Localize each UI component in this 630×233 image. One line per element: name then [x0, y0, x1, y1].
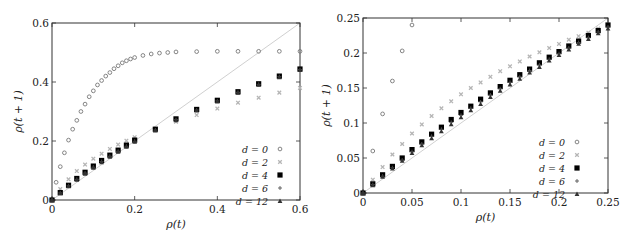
y-tick-label: 0.15	[337, 82, 360, 94]
legend-marker-icon	[575, 192, 580, 196]
series-d-4	[360, 22, 610, 195]
legend-label: d = 0	[539, 137, 565, 148]
legend-label: d = 4	[242, 170, 268, 181]
y-tick-label: 0	[353, 187, 360, 199]
series-d-12	[361, 26, 611, 195]
chart-left-full-range: 00.20.40.600.20.40.6ρ(t)ρ(t + 1)d = 0d =…	[0, 0, 315, 233]
x-tick-label: 0.15	[498, 196, 521, 208]
y-tick-label: 0	[42, 194, 49, 206]
series-d-0	[361, 23, 414, 195]
x-tick-label: 0.4	[209, 203, 226, 215]
x-tick-label: 0.6	[292, 203, 309, 215]
legend-marker-icon	[278, 199, 283, 203]
legend-label: d = 12	[236, 196, 268, 207]
legend-marker-icon	[278, 160, 282, 164]
x-axis-label: ρ(t)	[475, 211, 495, 224]
x-tick-label: 0.2	[126, 203, 143, 215]
y-tick-label: 0.6	[32, 17, 49, 29]
legend-label: d = 6	[242, 183, 268, 194]
legend-marker-icon	[277, 172, 282, 177]
y-tick-label: 0.1	[343, 117, 360, 129]
y-axis-label: ρ(t + 1)	[12, 90, 25, 134]
chart-left-svg: 00.20.40.600.20.40.6ρ(t)ρ(t + 1)d = 0d =…	[0, 0, 315, 233]
legend: d = 0d = 2d = 4d = 6d = 12	[236, 144, 283, 207]
legend-marker-icon	[575, 153, 579, 157]
legend-label: d = 2	[539, 150, 565, 161]
y-tick-label: 0.05	[337, 152, 360, 164]
x-tick-label: 0.25	[596, 196, 619, 208]
legend-marker-icon	[575, 179, 579, 183]
series-d-6	[361, 25, 610, 195]
legend-label: d = 4	[539, 163, 565, 174]
chart-right-zoomed-range: 00.050.10.150.20.2500.050.10.150.20.25ρ(…	[315, 0, 630, 233]
legend-marker-icon	[278, 186, 282, 190]
legend-marker-icon	[574, 165, 579, 170]
x-tick-label: 0	[49, 203, 56, 215]
x-tick-label: 0.1	[453, 196, 470, 208]
legend-label: d = 12	[533, 189, 565, 200]
legend-label: d = 2	[242, 157, 268, 168]
series-d-2	[361, 23, 610, 195]
legend-label: d = 6	[539, 176, 565, 187]
y-tick-label: 0.2	[32, 135, 49, 147]
x-tick-label: 0	[360, 196, 367, 208]
chart-right-svg: 00.050.10.150.20.2500.050.10.150.20.25ρ(…	[315, 0, 630, 233]
x-tick-label: 0.05	[400, 196, 423, 208]
y-tick-label: 0.25	[337, 12, 360, 24]
y-axis-label: ρ(t + 1)	[320, 84, 333, 128]
x-axis-label: ρ(t)	[165, 218, 185, 231]
legend: d = 0d = 2d = 4d = 6d = 12	[533, 137, 580, 200]
y-tick-label: 0.2	[343, 47, 360, 59]
y-tick-label: 0.4	[32, 76, 49, 88]
legend-marker-icon	[278, 147, 282, 151]
legend-label: d = 0	[242, 144, 268, 155]
legend-marker-icon	[575, 140, 579, 144]
